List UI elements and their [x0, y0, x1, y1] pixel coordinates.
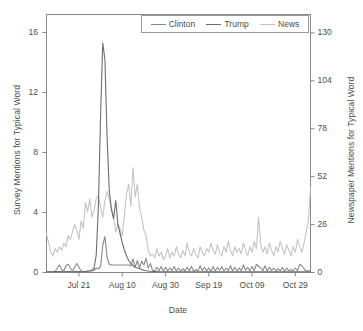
x-axis-tick-label: Oct 29: [270, 280, 320, 290]
y-axis-right-tick-label: 78: [318, 123, 348, 133]
legend-label: Clinton: [169, 19, 195, 29]
legend-label: News: [278, 19, 299, 29]
y-axis-left-tick-label: 0: [8, 267, 38, 277]
legend-swatch-trump-icon: [206, 24, 221, 25]
legend-label: Trump: [224, 19, 248, 29]
y-axis-left-tick-label: 4: [8, 207, 38, 217]
y-axis-left-tick-label: 12: [8, 87, 38, 97]
y-axis-right-tick-label: 130: [318, 27, 348, 37]
y-axis-right-tick-label: 104: [318, 75, 348, 85]
y-axis-left-tick-label: 8: [8, 147, 38, 157]
y-axis-right-tick-label: 0: [318, 267, 348, 277]
plot-frame: [47, 15, 311, 273]
legend-swatch-clinton-icon: [151, 24, 166, 25]
legend-swatch-news-icon: [260, 24, 275, 25]
chart-figure: Survey Mentions for Typical Word Newspap…: [0, 0, 363, 331]
legend-item-news[interactable]: News: [260, 19, 299, 29]
series-line-news: [47, 167, 311, 259]
y-axis-right-tick-label: 26: [318, 219, 348, 229]
y-axis-left-tick-label: 16: [8, 27, 38, 37]
series-line-trump: [47, 43, 311, 272]
y-axis-right-tick-label: 52: [318, 171, 348, 181]
legend-item-clinton[interactable]: Clinton: [151, 19, 195, 29]
chart-legend: ClintonTrumpNews: [141, 15, 309, 33]
legend-item-trump[interactable]: Trump: [206, 19, 248, 29]
